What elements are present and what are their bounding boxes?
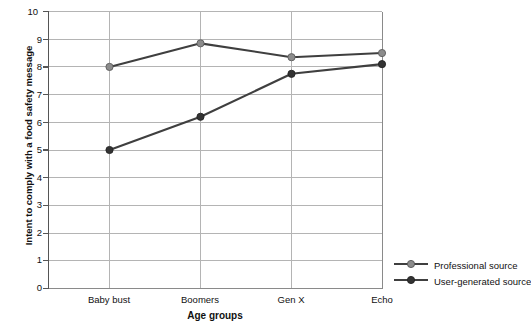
horizontal-gridlines [48,12,382,261]
data-point[interactable] [378,49,385,56]
legend-marker-user-generated-source[interactable] [394,276,428,283]
data-point[interactable] [288,54,295,61]
data-point[interactable] [288,70,295,77]
legend-marker-professional-source[interactable] [394,260,428,267]
y-axis-spine [43,11,49,289]
series-professional-source [106,40,386,71]
series-line [110,64,383,150]
data-point[interactable] [106,146,113,153]
data-point[interactable] [106,63,113,70]
data-series-layer [106,40,386,154]
data-point[interactable] [378,61,385,68]
series-line [110,43,383,67]
series-user-generated-source [106,61,386,154]
data-point[interactable] [197,113,204,120]
data-point[interactable] [197,40,204,47]
